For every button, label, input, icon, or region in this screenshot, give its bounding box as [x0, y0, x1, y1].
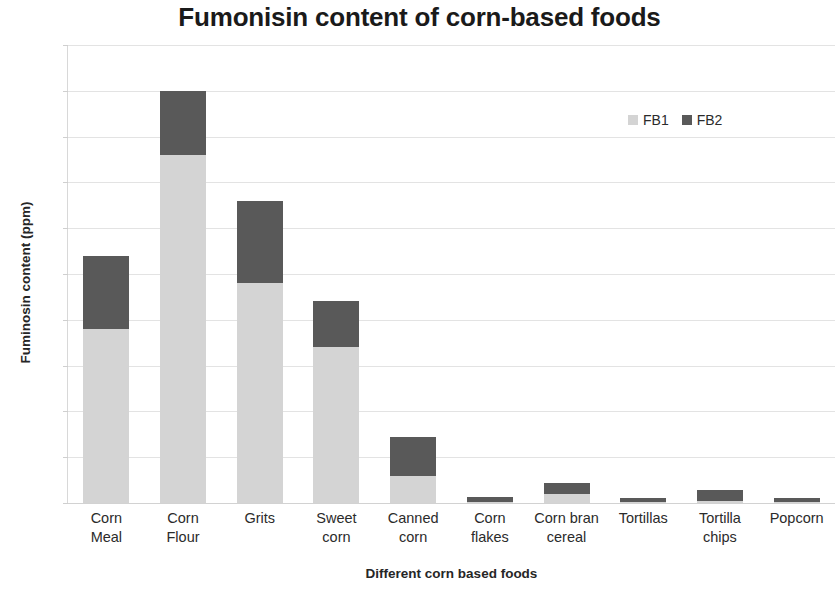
bar-segment-fb1[interactable] [313, 347, 359, 503]
legend-swatch-icon [682, 115, 692, 125]
bar-segment-fb2[interactable] [237, 201, 283, 283]
x-axis-category-label: Corn brancereal [528, 509, 605, 547]
bar-group[interactable] [620, 498, 666, 503]
bar-segment-fb2[interactable] [467, 497, 513, 502]
gridline [68, 503, 835, 504]
bar-segment-fb2[interactable] [313, 301, 359, 347]
bar-segment-fb1[interactable] [544, 494, 590, 503]
legend-entry-fb2[interactable]: FB2 [682, 112, 723, 128]
x-axis-title: Different corn based foods [68, 566, 835, 581]
bar-group[interactable] [544, 483, 590, 503]
legend-label: FB1 [643, 112, 669, 128]
bar-segment-fb2[interactable] [390, 437, 436, 475]
bar-segment-fb2[interactable] [160, 91, 206, 155]
x-axis-category-label: Sweetcorn [298, 509, 375, 547]
gridline [68, 45, 835, 46]
bar-segment-fb2[interactable] [774, 498, 820, 502]
x-axis-category-label: Cornflakes [452, 509, 529, 547]
bar-group[interactable] [83, 256, 129, 503]
bar-segment-fb1[interactable] [467, 502, 513, 503]
legend-entry-fb1[interactable]: FB1 [628, 112, 669, 128]
bar-segment-fb2[interactable] [697, 490, 743, 501]
x-axis-category-label: Grits [221, 509, 298, 528]
legend-label: FB2 [697, 112, 723, 128]
bar-segment-fb2[interactable] [83, 256, 129, 329]
bar-group[interactable] [237, 201, 283, 503]
x-axis-category-label: Cannedcorn [375, 509, 452, 547]
chart-title: Fumonisin content of corn-based foods [0, 2, 839, 33]
bar-segment-fb1[interactable] [237, 283, 283, 503]
bar-group[interactable] [697, 490, 743, 503]
bar-segment-fb1[interactable] [620, 502, 666, 503]
bar-segment-fb2[interactable] [544, 483, 590, 494]
legend-swatch-icon [628, 115, 638, 125]
x-axis-category-label: CornMeal [68, 509, 145, 547]
bar-segment-fb1[interactable] [774, 502, 820, 503]
bar-segment-fb1[interactable] [160, 155, 206, 503]
bar-segment-fb1[interactable] [697, 501, 743, 503]
x-axis-category-label: CornFlour [145, 509, 222, 547]
x-axis-category-label: Tortillas [605, 509, 682, 528]
y-axis-title: Fuminosin content (ppm) [18, 153, 33, 413]
bar-segment-fb1[interactable] [390, 476, 436, 503]
bar-segment-fb1[interactable] [83, 329, 129, 503]
bar-segment-fb2[interactable] [620, 498, 666, 503]
x-axis-category-label: Popcorn [758, 509, 835, 528]
bar-group[interactable] [313, 301, 359, 503]
bar-group[interactable] [390, 437, 436, 503]
chart-legend: FB1FB2 [628, 112, 722, 128]
bar-group[interactable] [774, 498, 820, 503]
bar-group[interactable] [160, 91, 206, 503]
bar-group[interactable] [467, 497, 513, 503]
chart-container: Fumonisin content of corn-based foods Fu… [0, 0, 839, 591]
x-axis-category-label: Tortillachips [682, 509, 759, 547]
